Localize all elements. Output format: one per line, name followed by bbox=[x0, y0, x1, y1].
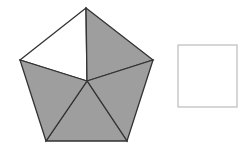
pentagon-figure bbox=[20, 8, 153, 141]
diagram-canvas bbox=[0, 0, 246, 151]
empty-square bbox=[178, 45, 237, 107]
